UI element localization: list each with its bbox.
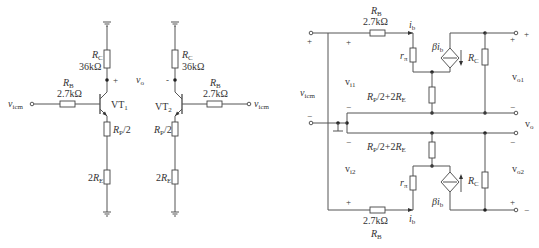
vicm-minus-sign: − — [307, 111, 312, 121]
re-resistor-vt2 — [172, 170, 178, 184]
rpi-resistor-bottom — [410, 176, 416, 190]
vicm-label-2: vicm — [254, 98, 270, 111]
collector-node-vt1 — [105, 78, 109, 82]
beta-ib-label-top: βib — [431, 41, 444, 54]
rp-half-label-vt2: RP/2 — [153, 124, 172, 137]
npn-transistor-icon — [175, 92, 182, 116]
rc-value-vt1: 36kΩ — [79, 61, 101, 72]
rp-half-resistor-vt1 — [104, 122, 110, 136]
vo2-minus-terminal — [514, 131, 518, 135]
rb-value-vt1: 2.7kΩ — [57, 88, 82, 99]
rb-resistor-vt1 — [60, 101, 75, 107]
vt1-label: VT1 — [111, 99, 128, 112]
vo2-plus-sign: + — [510, 197, 515, 207]
rc-resistor-bottom — [482, 172, 488, 188]
beta-ib-label-bottom: βib — [431, 196, 444, 209]
vicm-label-1: vicm — [8, 98, 24, 111]
vo-label-right: vo — [525, 118, 534, 131]
ib-label-bottom: ib — [409, 213, 416, 226]
vi2-plus-sign: + — [346, 197, 351, 207]
collector-node-bottom — [483, 208, 487, 212]
vi1-minus-sign: − — [346, 102, 351, 112]
rp-half-label-vt1: RP/2 — [112, 124, 131, 137]
rb-resistor-top — [370, 30, 385, 36]
re-resistor-vt1 — [104, 170, 110, 184]
rpi-label-top: rπ — [400, 50, 408, 63]
arrow-up-icon — [459, 174, 463, 192]
rp-half-resistor-vt2 — [172, 122, 178, 136]
re-label-vt1: 2RE — [88, 172, 103, 185]
vo2-plus-terminal — [514, 208, 518, 212]
vo1-plus-sign-outer: + — [524, 29, 529, 39]
vi1-plus-sign: + — [346, 37, 351, 47]
rb-value-bottom: 2.7kΩ — [363, 215, 388, 226]
collector-node-vt2 — [173, 78, 177, 82]
vicm-input-terminal-2 — [247, 102, 251, 106]
vo1-label: vo1 — [512, 71, 525, 84]
rpi-label-bottom: rπ — [400, 177, 408, 190]
vt2-half-circuit: RC 36kΩ - VT2 RB 2.7kΩ vicm RP/2 2RE — [153, 22, 270, 216]
rb-label-bottom: RB — [370, 228, 382, 241]
vo2-minus-sign: − — [510, 137, 515, 147]
ground-icon — [103, 22, 111, 50]
vicm-input-terminal-1 — [30, 102, 34, 106]
npn-transistor-icon — [100, 92, 107, 116]
ib-arrow-bottom — [408, 208, 413, 212]
rc-resistor-top — [482, 49, 488, 65]
emitter-resistor-top — [429, 87, 435, 103]
vt1-half-circuit: RC 36kΩ + VT1 RB 2.7kΩ vicm RP/2 2RE — [8, 22, 131, 216]
vicm-plus-terminal — [309, 31, 313, 35]
rb-value-top: 2.7kΩ — [363, 16, 388, 27]
ground-icon — [333, 123, 343, 131]
vo2-label: vo2 — [512, 163, 525, 176]
ground-icon — [103, 212, 111, 216]
vi2-minus-sign: − — [346, 137, 351, 147]
vo1-plus-sign-inner: + — [510, 34, 515, 44]
vicm-plus-sign: + — [307, 36, 312, 46]
emitter-resistor-label-bottom: RP/2+2RE — [366, 141, 406, 154]
small-signal-equivalent: RB 2.7kΩ ib rπ βib RC R — [300, 5, 534, 241]
emitter-resistor-bottom — [429, 142, 435, 158]
circuit-diagram: RC 36kΩ + VT1 RB 2.7kΩ vicm RP/2 2RE — [0, 0, 539, 248]
ground-icon — [171, 212, 179, 216]
vicm-minus-terminal — [309, 121, 313, 125]
vo1-minus-sign: − — [510, 102, 515, 112]
rc-resistor-vt1 — [104, 50, 110, 68]
rb-value-vt2: 2.7kΩ — [203, 88, 228, 99]
ib-label-top: ib — [409, 19, 416, 32]
minus-sign-vt2: - — [166, 75, 169, 85]
vo2-minus-sign-outer: − — [524, 205, 529, 215]
rc-resistor-vt2 — [172, 50, 178, 68]
rc-label-top: RC — [467, 52, 479, 65]
plus-sign-vt1: + — [113, 75, 118, 85]
vicm-label-right: vicm — [300, 87, 316, 100]
rc-value-vt2: 36kΩ — [182, 61, 204, 72]
ground-icon — [171, 22, 179, 50]
vo-label-left: vo — [136, 74, 144, 87]
vi2-label: vi2 — [345, 163, 356, 176]
re-label-vt2: 2RE — [156, 172, 171, 185]
rpi-resistor-top — [410, 48, 416, 62]
rb-resistor-bottom — [370, 207, 385, 213]
rb-resistor-vt2 — [207, 101, 222, 107]
vi1-label: vi1 — [345, 76, 356, 89]
emitter-resistor-label-top: RP/2+2RE — [366, 91, 406, 104]
rc-label-bottom: RC — [467, 175, 479, 188]
vt2-label: VT2 — [155, 101, 172, 114]
